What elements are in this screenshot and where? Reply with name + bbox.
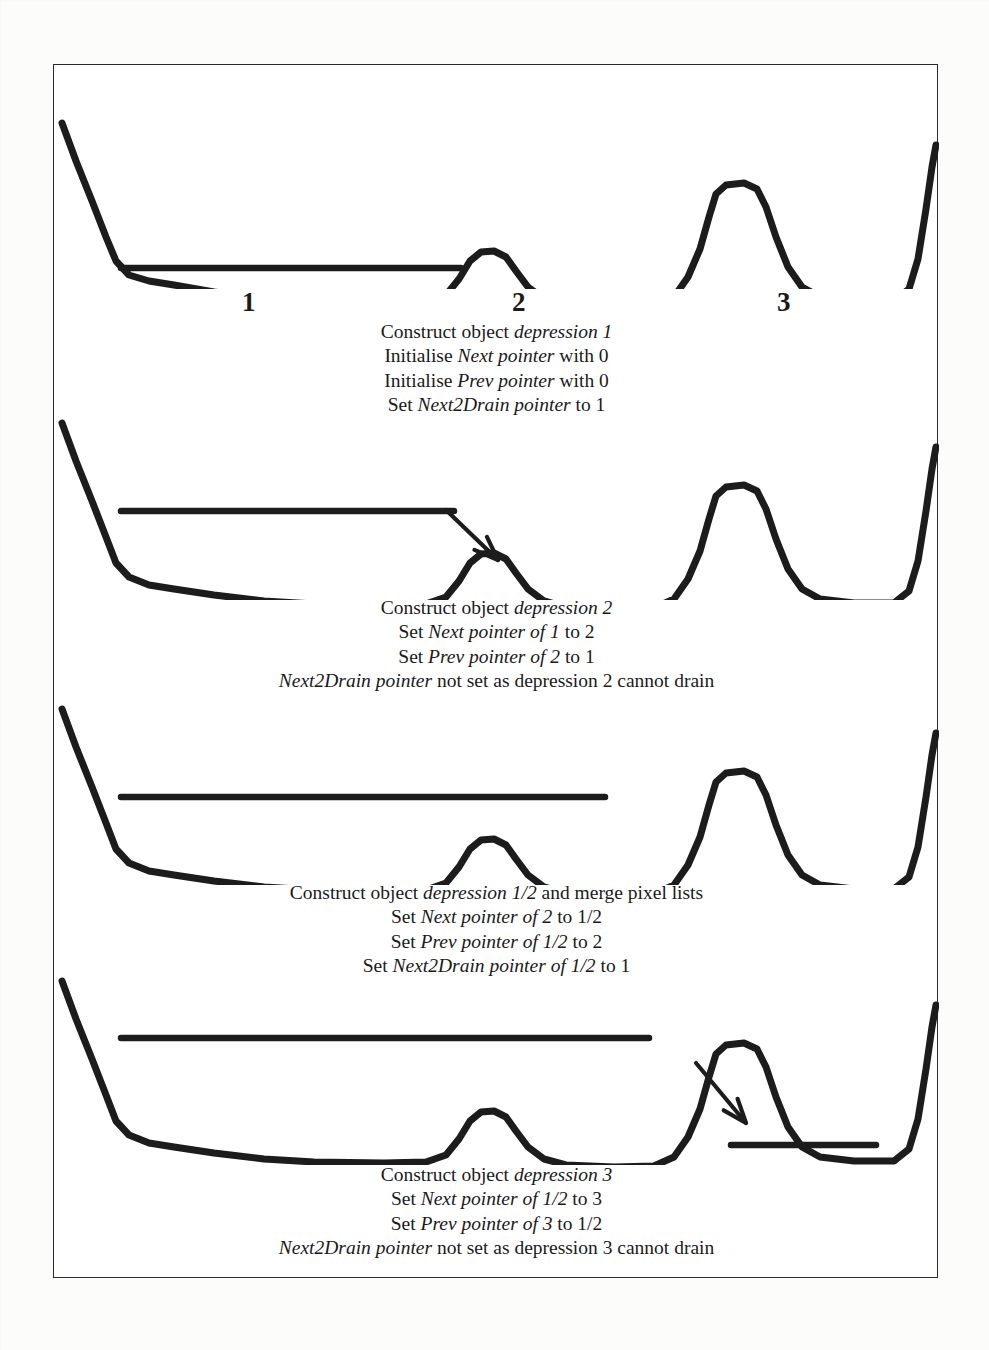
caption-text: Set <box>391 1213 421 1234</box>
caption-emphasis: Next pointer of 1/2 <box>421 1188 568 1209</box>
caption-line: Construct object depression 2 <box>54 596 939 620</box>
arrow-shaft <box>446 510 498 560</box>
terrain-profile <box>62 981 936 1165</box>
caption-line: Next2Drain pointer not set as depression… <box>54 1236 939 1260</box>
terrain-profile <box>62 123 936 289</box>
caption-line: Set Next pointer of 2 to 1/2 <box>54 905 939 929</box>
caption-emphasis: Prev pointer <box>457 370 554 391</box>
caption-line: Construct object depression 1/2 and merg… <box>54 881 939 905</box>
caption-text: not set as depression 3 cannot drain <box>432 1237 714 1258</box>
terrain-cross-section-1 <box>54 89 939 289</box>
panel-depression-3-spill <box>54 965 939 1165</box>
caption-line: Set Next pointer of 1 to 2 <box>54 620 939 644</box>
caption-text: Initialise <box>384 370 457 391</box>
caption-line: Set Prev pointer of 1/2 to 2 <box>54 930 939 954</box>
caption-emphasis: Prev pointer of 1/2 <box>420 931 567 952</box>
panel-depression-1-fills <box>54 89 939 289</box>
caption-line: Initialise Next pointer with 0 <box>54 344 939 368</box>
depression-label-3: 3 <box>777 287 791 317</box>
caption-emphasis: depression 2 <box>514 597 612 618</box>
terrain-cross-section-4 <box>54 965 939 1165</box>
caption-text: Set <box>391 931 421 952</box>
caption-emphasis: depression 1 <box>514 321 612 342</box>
caption-emphasis: Next pointer of 1 <box>428 621 560 642</box>
figure-frame: 1 2 3 Construct object depression 1Initi… <box>53 64 938 1278</box>
depression-label-2: 2 <box>512 287 526 317</box>
caption-text: to 1 <box>560 646 595 667</box>
caption-text: Construct object <box>381 1164 514 1185</box>
caption-panel-2: Construct object depression 2Set Next po… <box>54 596 939 694</box>
terrain-cross-section-2 <box>54 405 939 600</box>
caption-text: with 0 <box>555 370 609 391</box>
caption-text: Construct object <box>381 321 514 342</box>
caption-emphasis: depression 1/2 <box>423 882 537 903</box>
caption-line: Construct object depression 3 <box>54 1163 939 1187</box>
caption-emphasis: Next2Drain pointer <box>279 1237 432 1258</box>
caption-text: to 2 <box>568 931 603 952</box>
caption-panel-4: Construct object depression 3Set Next po… <box>54 1163 939 1261</box>
caption-emphasis: Next pointer <box>457 345 554 366</box>
panel-depression-1-2-merged <box>54 689 939 885</box>
caption-text: Set <box>391 1188 421 1209</box>
caption-line: Construct object depression 1 <box>54 320 939 344</box>
drain-arrow <box>446 510 498 560</box>
panel-depression-2-spill <box>54 405 939 600</box>
caption-emphasis: Prev pointer of 3 <box>420 1213 552 1234</box>
caption-text: Set <box>398 621 428 642</box>
caption-text: to 3 <box>567 1188 602 1209</box>
caption-text: Construct object <box>381 597 514 618</box>
caption-text: to 1/2 <box>552 1213 602 1234</box>
depression-number-labels: 1 2 3 <box>54 287 939 321</box>
caption-line: Set Prev pointer of 3 to 1/2 <box>54 1212 939 1236</box>
caption-emphasis: Next pointer of 2 <box>421 906 553 927</box>
caption-line: Set Prev pointer of 2 to 1 <box>54 645 939 669</box>
caption-emphasis: Prev pointer of 2 <box>428 646 560 667</box>
caption-panel-1: Construct object depression 1Initialise … <box>54 320 939 418</box>
caption-text: Set <box>391 906 421 927</box>
caption-panel-3: Construct object depression 1/2 and merg… <box>54 881 939 979</box>
depression-label-1: 1 <box>242 287 256 317</box>
caption-text: Initialise <box>384 345 457 366</box>
caption-text: Set <box>398 646 428 667</box>
caption-line: Initialise Prev pointer with 0 <box>54 369 939 393</box>
caption-text: to 2 <box>560 621 595 642</box>
caption-line: Set Next pointer of 1/2 to 3 <box>54 1187 939 1211</box>
caption-text: and merge pixel lists <box>537 882 703 903</box>
caption-text: Construct object <box>290 882 423 903</box>
caption-text: to 1/2 <box>552 906 602 927</box>
terrain-cross-section-3 <box>54 689 939 885</box>
caption-text: with 0 <box>554 345 608 366</box>
caption-emphasis: depression 3 <box>514 1164 612 1185</box>
